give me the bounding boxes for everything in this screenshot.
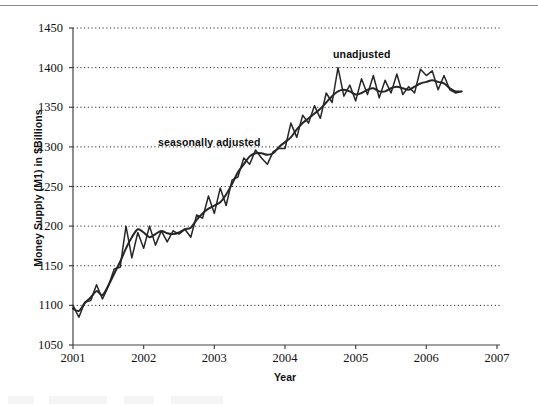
- y-tick-label: 1250: [21, 181, 63, 193]
- y-tick-label: 1400: [21, 62, 63, 74]
- page-footer-artifact: [8, 396, 223, 404]
- y-tick-label: 1050: [21, 339, 63, 351]
- y-tick-label: 1200: [21, 220, 63, 232]
- series-line-unadjusted: [73, 68, 462, 318]
- x-tick-label: 2001: [45, 352, 101, 364]
- x-tick-label: 2003: [186, 352, 242, 364]
- x-tick-label: 2005: [328, 352, 384, 364]
- y-tick-label: 1300: [21, 141, 63, 153]
- chart-plot-area: [0, 0, 538, 406]
- line-chart: Money Supply (M1) in $Billions Year 1050…: [0, 0, 538, 406]
- series-line-seasonally-adjusted: [73, 80, 462, 311]
- annotation-seasonally-adjusted: seasonally adjusted: [158, 136, 261, 148]
- x-axis-title: Year: [73, 371, 497, 383]
- x-tick-label: 2002: [116, 352, 172, 364]
- x-tick-label: 2006: [398, 352, 454, 364]
- y-tick-label: 1150: [21, 260, 63, 272]
- y-tick-label: 1450: [21, 22, 63, 34]
- x-tick-label: 2007: [469, 352, 525, 364]
- gridlines-group: [73, 28, 500, 305]
- annotation-unadjusted: unadjusted: [333, 48, 391, 60]
- y-tick-label: 1350: [21, 101, 63, 113]
- data-series-group: [73, 68, 462, 318]
- chart-page: Money Supply (M1) in $Billions Year 1050…: [0, 0, 538, 406]
- x-tick-label: 2004: [257, 352, 313, 364]
- y-tick-label: 1100: [21, 299, 63, 311]
